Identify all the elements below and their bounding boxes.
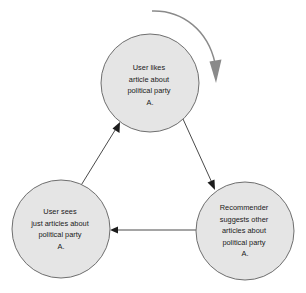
edge-sees-to-likes [80, 122, 120, 187]
cycle-loop-arrowhead [210, 60, 222, 84]
edge-likes-to-recommender [183, 119, 215, 190]
cycle-diagram: User likes article about political party… [0, 0, 306, 293]
edge-recommender-to-sees [110, 227, 196, 234]
edge-likes-to-recommender-arrowhead [208, 180, 216, 191]
edge-sees-to-likes-arrowhead [113, 122, 121, 133]
edge-sees-to-likes-line [80, 127, 117, 187]
diagram-canvas: User likes article about political party… [0, 0, 306, 293]
edge-likes-to-recommender-line [183, 119, 213, 185]
edge-recommender-to-sees-arrowhead [110, 227, 118, 234]
node-user-likes[interactable]: User likes article about political party… [101, 34, 199, 132]
node-user-sees[interactable]: User sees just articles about political … [12, 180, 110, 278]
node-recommender-suggests[interactable]: Recommender suggests other articles abou… [196, 182, 294, 280]
